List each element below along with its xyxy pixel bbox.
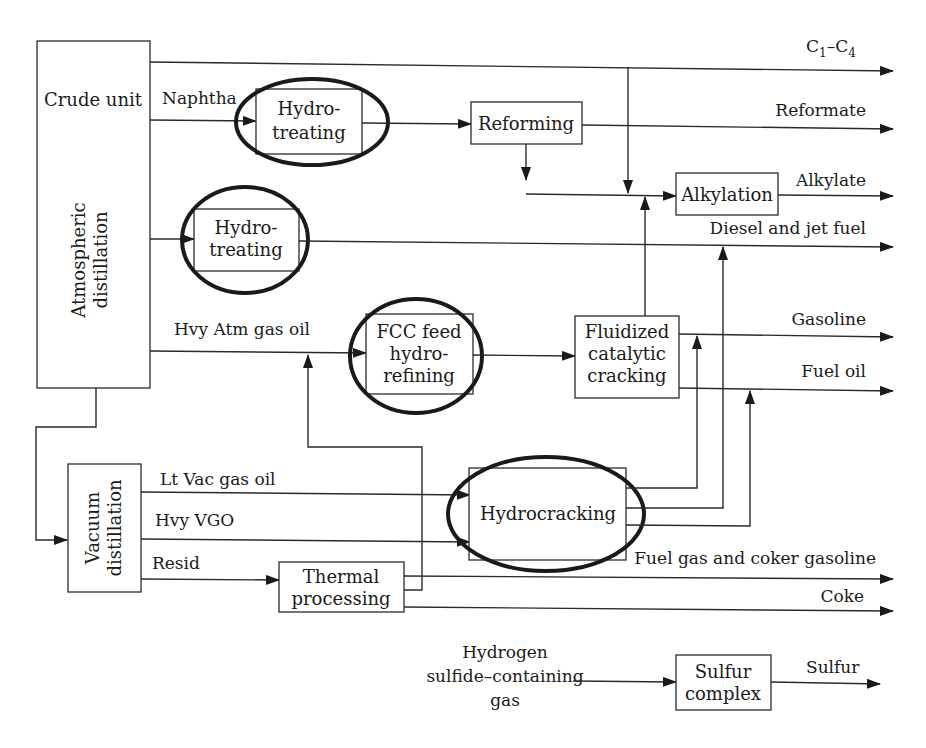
atmospheric-label-1: Atmospheric bbox=[68, 202, 89, 318]
arrow-hvy-atm-gas-oil bbox=[150, 351, 366, 353]
h2s-label-2: sulfide–containing bbox=[426, 666, 583, 686]
arrow-to-fcc bbox=[473, 355, 575, 356]
alkylation-label: Alkylation bbox=[680, 184, 773, 205]
fcc-label-2: catalytic bbox=[588, 343, 666, 364]
h2s-label-3: gas bbox=[490, 690, 520, 710]
unit-reforming: Reforming bbox=[471, 102, 582, 144]
stream-naphtha-label: Naphtha bbox=[162, 88, 237, 108]
arrow-gasoline bbox=[679, 334, 893, 337]
arrow-hydrotreating-to-reforming bbox=[362, 123, 471, 124]
vacuum-label-1: Vacuum bbox=[82, 492, 103, 565]
product-sulfur: Sulfur bbox=[806, 657, 860, 677]
naphtha-hydrotreating-label-1: Hydro- bbox=[278, 98, 341, 119]
fcc-feed-label-2: hydro- bbox=[390, 343, 449, 364]
naphtha-hydrotreating-label-2: treating bbox=[272, 122, 345, 143]
hydrocracking-label: Hydrocracking bbox=[480, 503, 616, 524]
unit-naphtha-hydrotreating: Hydro- treating bbox=[236, 79, 388, 165]
fcc-feed-label-1: FCC feed bbox=[376, 321, 461, 342]
arrow-fuel-oil bbox=[679, 388, 893, 391]
arrow-to-alkylation bbox=[526, 194, 676, 196]
arrow-naphtha bbox=[150, 120, 256, 121]
product-fuel-oil: Fuel oil bbox=[801, 361, 866, 381]
h2s-label-1: Hydrogen bbox=[462, 642, 548, 662]
product-gasoline: Gasoline bbox=[791, 309, 866, 329]
atmospheric-label-2: distillation bbox=[90, 211, 111, 309]
arrow-resid bbox=[141, 579, 279, 580]
product-reformate: Reformate bbox=[775, 100, 866, 120]
distillate-hydrotreating-label-2: treating bbox=[209, 239, 282, 260]
unit-sulfur-complex: Sulfur complex bbox=[676, 655, 771, 710]
fcc-feed-label-3: refining bbox=[383, 365, 455, 386]
unit-fcc-feed-hydrorefining: FCC feed hydro- refining bbox=[350, 299, 482, 413]
arrow-fuel-gas-coker bbox=[404, 576, 893, 579]
sulfur-complex-label-2: complex bbox=[685, 683, 761, 704]
arrow-alkylate bbox=[778, 195, 893, 196]
sulfur-complex-label-1: Sulfur bbox=[695, 661, 752, 682]
vacuum-label-2: distillation bbox=[104, 479, 125, 577]
stream-lt-vac-gas-oil-label: Lt Vac gas oil bbox=[160, 469, 276, 489]
unit-alkylation: Alkylation bbox=[676, 173, 778, 215]
stream-hvy-vgo-label: Hvy VGO bbox=[155, 510, 234, 530]
product-fuel-gas-coker: Fuel gas and coker gasoline bbox=[634, 548, 876, 568]
unit-distillate-hydrotreating: Hydro- treating bbox=[182, 187, 308, 293]
crude-unit-label: Crude unit bbox=[44, 89, 143, 110]
product-coke: Coke bbox=[820, 586, 864, 606]
arrow-c1-c4 bbox=[150, 62, 893, 71]
arrow-lt-vac-gas-oil bbox=[141, 492, 470, 495]
arrow-diesel-jet bbox=[299, 241, 893, 247]
product-c1-c4: C1–C4 bbox=[806, 36, 856, 60]
unit-hydrocracking: Hydrocracking bbox=[448, 457, 644, 571]
arrow-h2s-gas bbox=[573, 681, 676, 682]
thermal-label-1: Thermal bbox=[303, 566, 380, 587]
unit-thermal-processing: Thermal processing bbox=[279, 562, 404, 612]
arrow-coke bbox=[404, 607, 893, 611]
unit-vacuum-distillation: Vacuum distillation bbox=[68, 464, 141, 592]
fcc-label-1: Fluidized bbox=[585, 321, 670, 342]
atmospheric-distillation-unit: Crude unit Atmospheric distillation bbox=[37, 41, 150, 388]
refinery-flow-diagram: Crude unit Atmospheric distillation C1–C… bbox=[0, 0, 926, 748]
reforming-label: Reforming bbox=[478, 113, 574, 134]
stream-resid-label: Resid bbox=[152, 553, 200, 573]
fcc-label-3: cracking bbox=[587, 365, 666, 386]
arrow-sulfur bbox=[771, 682, 880, 684]
unit-fcc: Fluidized catalytic cracking bbox=[575, 316, 679, 398]
product-diesel-jet: Diesel and jet fuel bbox=[710, 218, 866, 238]
thermal-label-2: processing bbox=[291, 588, 390, 609]
distillate-hydrotreating-label-1: Hydro- bbox=[215, 217, 278, 238]
stream-hvy-atm-gas-oil-label: Hvy Atm gas oil bbox=[174, 319, 310, 339]
product-alkylate: Alkylate bbox=[795, 170, 866, 190]
arrow-hvy-vgo bbox=[141, 539, 470, 542]
